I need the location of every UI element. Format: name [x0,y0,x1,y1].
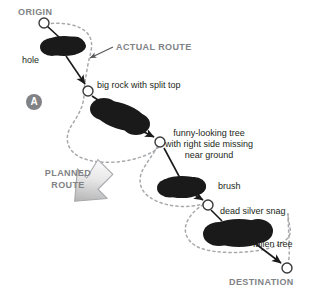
label-funny-tree-line1: funny-looking tree [154,128,264,140]
label-fallen-tree: fallen tree [253,239,293,250]
waypoint-destination [282,263,292,273]
label-hole: hole [22,55,39,66]
label-funny-tree-line2: with right side missing [154,139,264,151]
actual-route-leader-line [90,47,113,58]
obstacle-brush [157,176,206,198]
label-actual-route: ACTUAL ROUTE [116,42,192,53]
waypoint-origin [39,18,49,28]
waypoint-big-rock [83,86,93,96]
label-dead-silver-snag: dead silver snag [220,206,286,217]
waypoint-dead-silver-snag [203,200,213,210]
navigation-route-diagram: ORIGIN hole ACTUAL ROUTE big rock with s… [0,0,312,297]
label-origin: ORIGIN [18,7,52,18]
label-funny-tree-line3: near ground [154,150,264,162]
label-planned-route-line1: PLANNED [28,168,108,180]
obstacle-hole [40,36,86,56]
label-destination: DESTINATION [229,277,294,288]
label-big-rock: big rock with split top [97,80,181,91]
panel-badge-a: A [26,94,42,110]
label-brush: brush [218,181,241,192]
label-planned-route-line2: ROUTE [28,180,108,192]
